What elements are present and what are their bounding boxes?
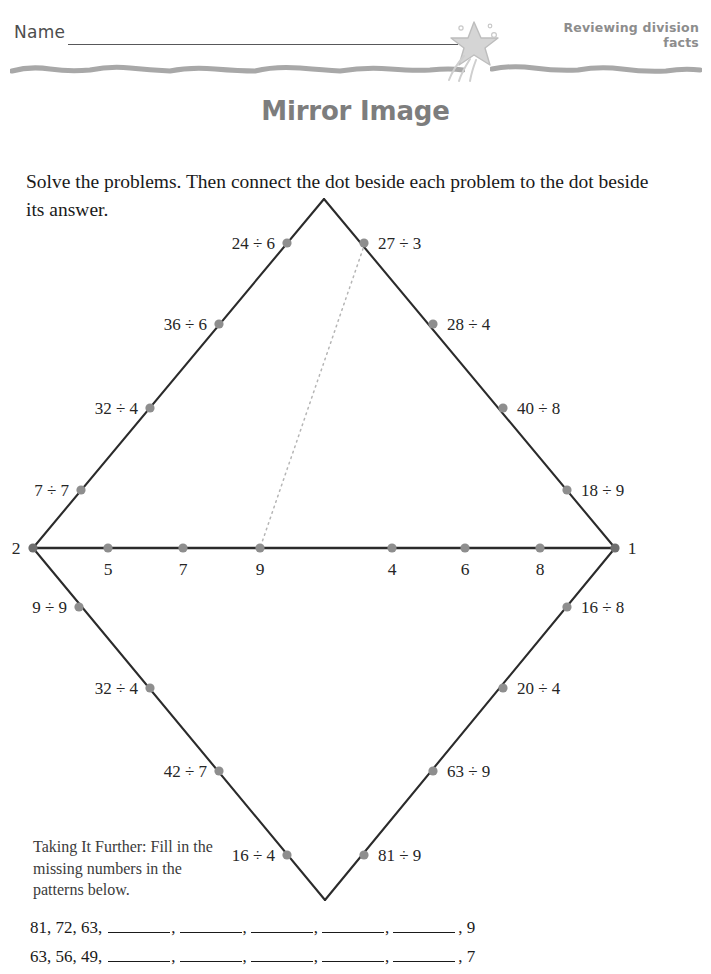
answer-dot[interactable] xyxy=(103,543,112,552)
pattern-blank[interactable] xyxy=(251,919,313,933)
problem-dot[interactable] xyxy=(145,403,154,412)
pattern-blank[interactable] xyxy=(251,948,313,962)
answer-label: 6 xyxy=(461,559,470,579)
problem-label: 36 ÷ 6 xyxy=(164,315,207,334)
answer-dot[interactable] xyxy=(255,543,264,552)
answer-label: 9 xyxy=(256,559,265,579)
problem-label: 40 ÷ 8 xyxy=(517,399,560,418)
decorative-rule-left xyxy=(10,62,465,76)
pattern-separator: , xyxy=(171,947,175,967)
problem-label: 32 ÷ 4 xyxy=(95,399,139,418)
pattern-blank[interactable] xyxy=(322,948,384,962)
problem-dot[interactable] xyxy=(282,850,291,859)
example-connection-line xyxy=(260,243,365,548)
problem-label: 18 ÷ 9 xyxy=(581,481,624,500)
pattern-separator: , xyxy=(385,947,389,967)
problem-dot[interactable] xyxy=(562,602,571,611)
problem-label: 27 ÷ 3 xyxy=(378,234,421,253)
answer-dot[interactable] xyxy=(460,543,469,552)
answer-dot[interactable] xyxy=(28,543,37,552)
problem-dot[interactable] xyxy=(359,850,368,859)
problem-label: 7 ÷ 7 xyxy=(34,481,69,500)
problem-label: 24 ÷ 6 xyxy=(232,234,275,253)
pattern-row: 81, 72, 63,,,,,, 9 xyxy=(30,918,690,938)
taking-it-further-text: Taking It Further: Fill in the missing n… xyxy=(33,836,223,901)
answer-dot[interactable] xyxy=(535,543,544,552)
diamond-edge xyxy=(325,548,615,900)
diamond-edge xyxy=(324,199,615,548)
pattern-blank[interactable] xyxy=(393,948,455,962)
problem-label: 9 ÷ 9 xyxy=(32,598,67,617)
problem-label: 63 ÷ 9 xyxy=(447,762,490,781)
problem-dot[interactable] xyxy=(359,238,368,247)
name-input-line[interactable] xyxy=(68,44,458,45)
problem-dot[interactable] xyxy=(428,766,437,775)
decorative-rule-right xyxy=(490,62,702,76)
name-label: Name xyxy=(14,22,65,42)
problem-label: 16 ÷ 4 xyxy=(232,846,276,865)
diamond-edges xyxy=(33,199,615,900)
pattern-end-value: , 7 xyxy=(458,947,475,967)
worksheet-topic: Reviewing division facts xyxy=(499,20,699,50)
pattern-blank[interactable] xyxy=(180,948,242,962)
pattern-exercises: 81, 72, 63,,,,,, 963, 56, 49,,,,,, 7 xyxy=(30,918,690,974)
page-title: Mirror Image xyxy=(0,96,711,126)
answer-label: 5 xyxy=(104,559,113,579)
answer-label: 4 xyxy=(388,559,397,579)
problem-dot[interactable] xyxy=(145,683,154,692)
problem-dot[interactable] xyxy=(562,485,571,494)
problem-label: 81 ÷ 9 xyxy=(378,846,421,865)
pattern-blank[interactable] xyxy=(180,919,242,933)
answer-dot[interactable] xyxy=(178,543,187,552)
pattern-separator: , xyxy=(243,918,247,938)
answer-label: 1 xyxy=(628,538,637,558)
problem-label: 32 ÷ 4 xyxy=(95,679,139,698)
pattern-separator: , xyxy=(171,918,175,938)
pattern-blank[interactable] xyxy=(108,919,170,933)
problem-dot[interactable] xyxy=(498,403,507,412)
answer-label: 7 xyxy=(179,559,188,579)
problem-label: 16 ÷ 8 xyxy=(581,598,624,617)
page-header: Name Reviewing division facts xyxy=(0,0,711,86)
problem-label: 42 ÷ 7 xyxy=(164,762,208,781)
problem-label: 28 ÷ 4 xyxy=(447,315,491,334)
pattern-start-values: 63, 56, 49, xyxy=(30,947,102,967)
example-connection-line xyxy=(260,243,365,548)
problem-dot[interactable] xyxy=(498,683,507,692)
problem-label: 20 ÷ 4 xyxy=(517,679,561,698)
topic-line-1: Reviewing division xyxy=(563,20,699,35)
pattern-end-value: , 9 xyxy=(458,918,475,938)
mirror-image-diagram: 24 ÷ 636 ÷ 632 ÷ 47 ÷ 727 ÷ 328 ÷ 440 ÷ … xyxy=(0,185,711,915)
pattern-separator: , xyxy=(243,947,247,967)
problem-dot[interactable] xyxy=(214,319,223,328)
pattern-separator: , xyxy=(314,947,318,967)
problem-dot[interactable] xyxy=(214,766,223,775)
answer-label: 8 xyxy=(536,559,545,579)
pattern-row: 63, 56, 49,,,,,, 7 xyxy=(30,947,690,967)
pattern-separator: , xyxy=(385,918,389,938)
pattern-blank[interactable] xyxy=(108,948,170,962)
pattern-blank[interactable] xyxy=(393,919,455,933)
problem-dot[interactable] xyxy=(282,238,291,247)
problem-dot[interactable] xyxy=(74,602,83,611)
answer-dot[interactable] xyxy=(610,543,619,552)
pattern-start-values: 81, 72, 63, xyxy=(30,918,102,938)
answer-label: 2 xyxy=(12,538,21,558)
problem-dot[interactable] xyxy=(428,319,437,328)
problem-dot[interactable] xyxy=(76,485,85,494)
pattern-blank[interactable] xyxy=(322,919,384,933)
diamond-edge xyxy=(33,199,324,548)
answer-dot[interactable] xyxy=(387,543,396,552)
pattern-separator: , xyxy=(314,918,318,938)
topic-line-2: facts xyxy=(663,35,699,50)
